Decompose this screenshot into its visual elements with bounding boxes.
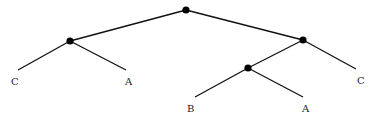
edges: [18, 10, 356, 97]
edge-n2-n3: [248, 40, 303, 68]
root-node: [182, 6, 189, 13]
tree-diagram: C A B A C: [0, 0, 375, 120]
edge-n2-leaf5: [303, 40, 356, 69]
leaf-label-1: C: [11, 76, 19, 87]
edge-root-n1: [70, 10, 186, 41]
leaf-label-3: B: [187, 103, 194, 114]
edge-n1-leaf1: [18, 41, 70, 70]
internal-nodes: [66, 6, 306, 71]
internal-node-lower: [244, 64, 251, 71]
leaf-label-4: A: [301, 103, 310, 114]
edge-n3-leaf3: [195, 68, 248, 97]
edge-root-n2: [186, 10, 303, 40]
edge-n3-leaf4: [248, 68, 303, 97]
internal-node-left: [66, 37, 73, 44]
internal-node-right: [299, 36, 306, 43]
leaf-label-5: C: [357, 75, 365, 86]
leaf-labels: C A B A C: [11, 75, 365, 114]
leaf-label-2: A: [124, 76, 133, 87]
edge-n1-leaf2: [70, 41, 126, 70]
